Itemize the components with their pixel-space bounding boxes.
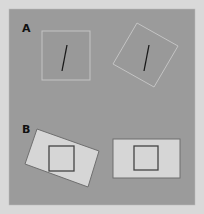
section-label-b: B (22, 123, 30, 136)
section-label-a: A (22, 22, 31, 35)
upright-rectangle-b (113, 139, 180, 178)
illusion-figure: A B (0, 0, 204, 214)
upright-frame-a (42, 31, 90, 80)
